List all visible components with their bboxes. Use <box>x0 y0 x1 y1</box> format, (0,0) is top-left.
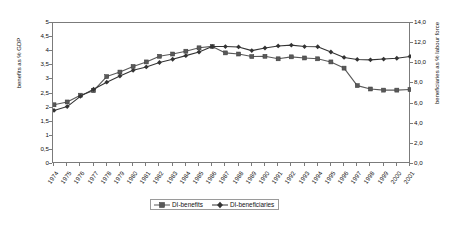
y-tick-label: 1 <box>9 131 49 139</box>
data-point-marker <box>329 60 333 64</box>
data-point-marker <box>289 43 294 48</box>
data-point-marker <box>355 57 360 62</box>
data-point-marker <box>328 50 333 55</box>
series-di-benefits <box>53 44 411 106</box>
data-point-marker <box>368 87 372 91</box>
data-point-marker <box>263 54 267 58</box>
data-point-marker <box>237 52 241 56</box>
data-point-marker <box>342 55 347 60</box>
data-point-marker <box>316 57 320 61</box>
data-point-marker <box>236 45 241 50</box>
y-tick-label: 14,0 <box>414 18 454 26</box>
data-point-marker <box>183 53 188 58</box>
series-canvas <box>53 23 411 164</box>
data-point-marker <box>197 50 202 55</box>
data-point-marker <box>342 66 346 70</box>
legend-swatch-diamond-icon <box>212 201 228 209</box>
y-tick-label: 12,0 <box>414 38 454 46</box>
data-point-marker <box>104 80 109 85</box>
data-point-marker <box>223 51 227 55</box>
data-point-marker <box>263 46 268 51</box>
data-point-marker <box>144 65 149 70</box>
y-tick-label: 0,5 <box>9 145 49 153</box>
y-tick-label: 4,5 <box>9 32 49 40</box>
data-point-marker <box>395 88 399 92</box>
data-point-marker <box>157 60 162 65</box>
y-tick-label: 2,0 <box>414 139 454 147</box>
data-point-marker <box>131 64 135 68</box>
y-tick-label: 6,0 <box>414 99 454 107</box>
data-point-marker <box>184 49 188 53</box>
data-point-marker <box>249 48 254 53</box>
data-point-marker <box>53 108 56 113</box>
data-point-marker <box>302 44 307 49</box>
data-point-marker <box>382 88 386 92</box>
y-tick-mark <box>49 163 52 164</box>
data-point-marker <box>355 84 359 88</box>
data-point-marker <box>394 56 399 61</box>
y-tick-label: 5 <box>9 18 49 26</box>
y-tick-label: 2,5 <box>9 89 49 97</box>
data-point-marker <box>276 44 281 49</box>
data-point-marker <box>171 52 175 56</box>
data-point-marker <box>197 46 201 50</box>
legend-label-di-benefits: DI-benefits <box>172 201 203 209</box>
y-tick-label: 3 <box>9 74 49 82</box>
chart-legend: DI-benefits DI-beneficiaries <box>150 199 279 210</box>
y-tick-label: 0,0 <box>414 159 454 167</box>
data-point-marker <box>276 57 280 61</box>
data-point-marker <box>53 103 56 107</box>
y-tick-label: 3,5 <box>9 60 49 68</box>
y-tick-label: 8,0 <box>414 78 454 86</box>
data-point-marker <box>303 56 307 60</box>
legend-item-di-beneficiaries: DI-beneficiaries <box>212 201 274 209</box>
data-point-marker <box>144 60 148 64</box>
data-point-marker <box>105 75 109 79</box>
data-point-marker <box>408 88 411 92</box>
data-point-marker <box>289 55 293 59</box>
legend-item-di-benefits: DI-benefits <box>154 201 203 209</box>
legend-label-di-beneficiaries: DI-beneficiaries <box>230 201 274 209</box>
data-point-marker <box>381 57 386 62</box>
data-point-marker <box>250 55 254 59</box>
y-tick-label: 2 <box>9 103 49 111</box>
plot-area <box>52 22 410 163</box>
y-tick-label: 1,5 <box>9 117 49 125</box>
data-point-marker <box>65 100 69 104</box>
y-tick-label: 4 <box>9 46 49 54</box>
y-tick-label: 10,0 <box>414 58 454 66</box>
data-point-marker <box>170 57 175 62</box>
data-point-marker <box>157 54 161 58</box>
data-point-marker <box>223 44 228 49</box>
data-point-marker <box>315 44 320 49</box>
y-tick-label: 0 <box>9 159 49 167</box>
data-point-marker <box>368 57 373 62</box>
data-point-marker <box>408 54 411 59</box>
data-point-marker <box>118 70 122 74</box>
chart-figure: benefits as % GDP beneficiaries as % lab… <box>0 0 460 230</box>
legend-swatch-square-icon <box>154 201 170 209</box>
y-tick-label: 4,0 <box>414 119 454 127</box>
